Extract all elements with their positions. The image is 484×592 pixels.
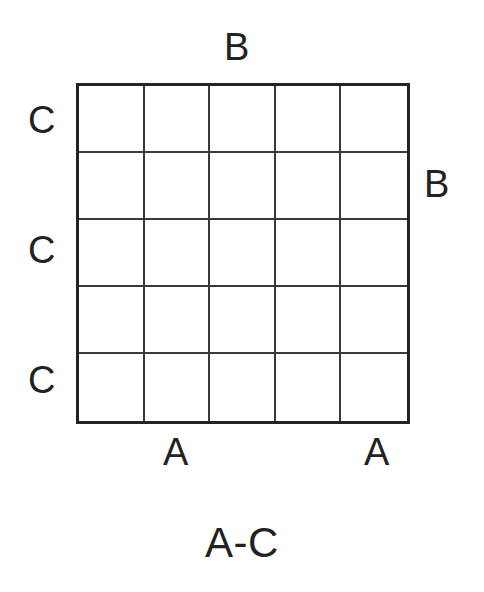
grid-cell (145, 153, 211, 220)
grid-cell (79, 153, 145, 220)
grid-cell (276, 354, 342, 421)
left-axis-label-c-1: C (16, 101, 68, 139)
grid-table (76, 83, 410, 424)
grid-cell (145, 86, 211, 153)
grid-cell (145, 354, 211, 421)
grid-cell (341, 287, 407, 354)
grid-cell (276, 287, 342, 354)
grid-cell (341, 86, 407, 153)
grid-cell (341, 220, 407, 287)
grid-cell (210, 287, 276, 354)
grid-cell (210, 354, 276, 421)
grid-cell (79, 86, 145, 153)
grid-cell (341, 354, 407, 421)
left-axis-label-c-3: C (16, 361, 68, 399)
grid-cell (276, 220, 342, 287)
bottom-axis-label-a-2: A (353, 433, 401, 471)
grid-cell (276, 153, 342, 220)
grid-cell (79, 354, 145, 421)
grid-cell (79, 220, 145, 287)
diagram-canvas: B C C C B A A A-C (0, 0, 484, 592)
bottom-axis-label-a-1: A (152, 433, 200, 471)
right-axis-label-b: B (424, 165, 468, 203)
left-axis-label-c-2: C (16, 231, 68, 269)
grid-cell (276, 86, 342, 153)
grid-cell (145, 220, 211, 287)
figure-caption: A-C (0, 522, 484, 564)
grid-cell (210, 220, 276, 287)
grid-cell (210, 153, 276, 220)
grid-cell (145, 287, 211, 354)
grid-cell (79, 287, 145, 354)
top-axis-label-b: B (0, 28, 479, 66)
grid-cell (341, 153, 407, 220)
grid-cell (210, 86, 276, 153)
